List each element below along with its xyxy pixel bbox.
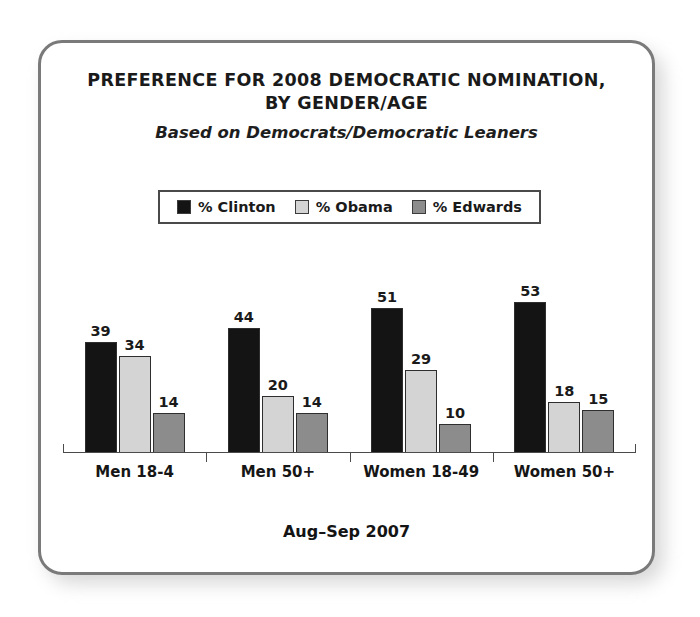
bar-value-label: 14 <box>159 394 179 410</box>
bar-column: 14 <box>153 238 185 453</box>
x-axis-category-label-0: Men 18-4 <box>63 463 206 481</box>
bar-column: 15 <box>582 238 614 453</box>
bar-column: 44 <box>228 238 260 453</box>
bar-column: 14 <box>296 238 328 453</box>
x-axis-right-cap <box>635 444 636 453</box>
x-axis-category-label-3: Women 50+ <box>493 463 636 481</box>
bar-column: 20 <box>262 238 294 453</box>
bar[interactable] <box>153 413 185 453</box>
x-axis-category-label-1: Men 50+ <box>206 463 349 481</box>
bar-value-label: 44 <box>234 309 254 325</box>
bar-column: 51 <box>371 238 403 453</box>
page-title-line-2: BY GENDER/AGE <box>41 92 652 115</box>
bar-group: 531815 <box>493 238 636 453</box>
bar[interactable] <box>228 328 260 453</box>
bar[interactable] <box>514 302 546 453</box>
scanned-page: PREFERENCE FOR 2008 DEMOCRATIC NOMINATIO… <box>0 0 700 617</box>
bar-groups: 393414442014512910531815 <box>63 238 636 453</box>
legend-item-clinton[interactable]: % Clinton <box>177 199 276 215</box>
bar-column: 29 <box>405 238 437 453</box>
legend-label-obama: % Obama <box>316 199 393 215</box>
bar[interactable] <box>439 424 471 453</box>
bar[interactable] <box>371 308 403 453</box>
bar-column: 53 <box>514 238 546 453</box>
bar-value-label: 10 <box>445 405 465 421</box>
bar-group: 442014 <box>206 238 349 453</box>
bar[interactable] <box>262 396 294 453</box>
x-axis-left-cap <box>63 444 64 453</box>
filled-square-icon <box>412 200 426 214</box>
legend-label-edwards: % Edwards <box>433 199 522 215</box>
bar[interactable] <box>119 356 151 453</box>
x-axis-tick <box>493 453 494 462</box>
title-block: PREFERENCE FOR 2008 DEMOCRATIC NOMINATIO… <box>41 69 652 143</box>
x-axis-tick <box>206 453 207 462</box>
bar[interactable] <box>296 413 328 453</box>
bar[interactable] <box>405 370 437 453</box>
bar-value-label: 39 <box>91 323 111 339</box>
chart-footer-note: Aug–Sep 2007 <box>41 522 652 541</box>
bar-value-label: 20 <box>268 377 288 393</box>
bar-chart-plot-area: 393414442014512910531815 <box>63 238 636 453</box>
chart-card: PREFERENCE FOR 2008 DEMOCRATIC NOMINATIO… <box>38 40 655 575</box>
bar-value-label: 34 <box>125 337 145 353</box>
bar-value-label: 53 <box>520 283 540 299</box>
chart-legend: % Clinton % Obama % Edwards <box>158 190 541 224</box>
x-axis-tick <box>350 453 351 462</box>
chart-subtitle: Based on Democrats/Democratic Leaners <box>41 123 652 143</box>
bar[interactable] <box>548 402 580 453</box>
legend-label-clinton: % Clinton <box>198 199 276 215</box>
bar-column: 18 <box>548 238 580 453</box>
bar-value-label: 29 <box>411 351 431 367</box>
filled-square-icon <box>177 200 191 214</box>
page-title-line-1: PREFERENCE FOR 2008 DEMOCRATIC NOMINATIO… <box>41 69 652 92</box>
x-axis-category-label-2: Women 18-49 <box>350 463 493 481</box>
bar[interactable] <box>582 410 614 453</box>
filled-square-icon <box>295 200 309 214</box>
x-axis-category-labels: Men 18-4Men 50+Women 18-49Women 50+ <box>63 463 636 481</box>
bar-column: 34 <box>119 238 151 453</box>
bar-column: 10 <box>439 238 471 453</box>
bar-value-label: 51 <box>377 289 397 305</box>
legend-item-edwards[interactable]: % Edwards <box>412 199 522 215</box>
bar-value-label: 15 <box>588 391 608 407</box>
bar-value-label: 14 <box>302 394 322 410</box>
bar-group: 512910 <box>350 238 493 453</box>
bar-group: 393414 <box>63 238 206 453</box>
bar-value-label: 18 <box>554 383 574 399</box>
legend-item-obama[interactable]: % Obama <box>295 199 393 215</box>
bar[interactable] <box>85 342 117 453</box>
bar-column: 39 <box>85 238 117 453</box>
